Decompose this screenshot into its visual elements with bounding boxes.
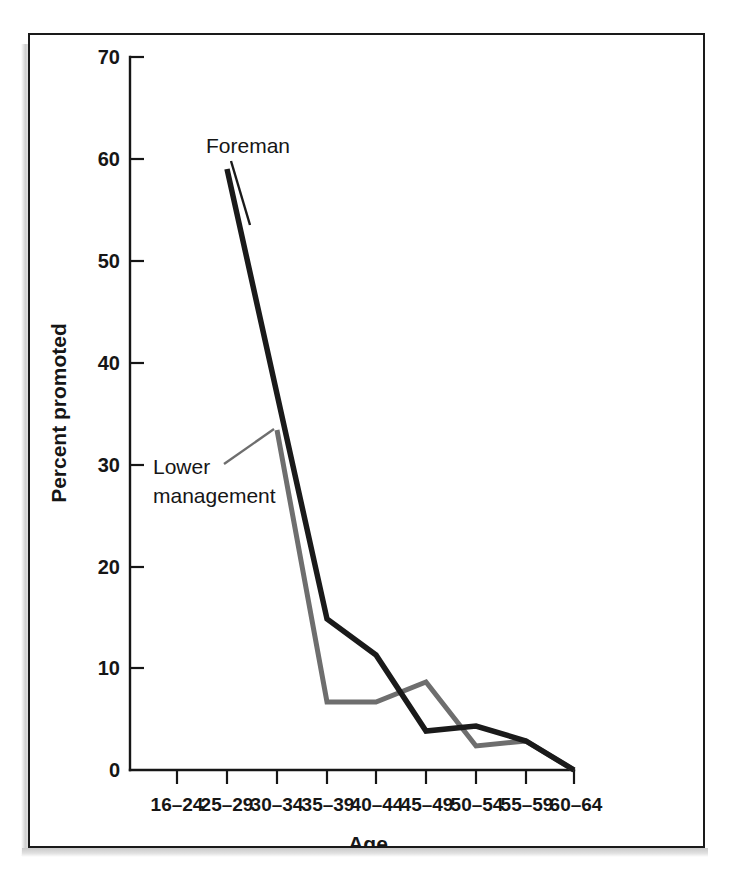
annotation-leader-lower-management	[224, 429, 274, 464]
x-tick-label-55-59: 55–59	[501, 794, 554, 815]
x-tick-label-60-64: 60–64	[550, 794, 603, 815]
y-tick-labels: 70 60 50 40 30 20 10 0	[98, 46, 120, 781]
figure-root: 70 60 50 40 30 20 10 0 Percent promoted …	[0, 0, 732, 880]
line-chart: 70 60 50 40 30 20 10 0 Percent promoted …	[28, 33, 705, 848]
y-tick-label-50: 50	[98, 250, 120, 272]
x-tick-label-25-29: 25–29	[201, 794, 254, 815]
annotation-label-lower-line1: Lower	[153, 455, 210, 478]
y-tick-label-40: 40	[98, 352, 120, 374]
y-tick-label-70: 70	[98, 46, 120, 68]
x-tick-labels: 16–24 25–29 30–34 35–39 40–44 45–49 50–5…	[151, 794, 603, 815]
annotation-label-lower-line2: management	[153, 484, 276, 507]
x-tick-label-30-34: 30–34	[251, 794, 304, 815]
series-line-foreman	[227, 169, 574, 770]
x-tick-marks	[177, 770, 574, 784]
y-axis-title: Percent promoted	[47, 323, 70, 503]
annotation-label-foreman: Foreman	[206, 134, 290, 157]
y-tick-label-20: 20	[98, 556, 120, 578]
x-tick-label-40-44: 40–44	[351, 794, 404, 815]
y-tick-label-60: 60	[98, 148, 120, 170]
figure-shadow-bottom	[22, 848, 708, 857]
y-tick-label-10: 10	[98, 657, 120, 679]
x-tick-label-50-54: 50–54	[451, 794, 504, 815]
x-tick-label-16-24: 16–24	[151, 794, 204, 815]
x-tick-label-35-39: 35–39	[302, 794, 355, 815]
y-tick-marks	[130, 57, 144, 668]
x-axis-title: Age	[348, 832, 388, 848]
y-tick-label-30: 30	[98, 454, 120, 476]
y-tick-label-0: 0	[109, 759, 120, 781]
x-tick-label-45-49: 45–49	[401, 794, 454, 815]
